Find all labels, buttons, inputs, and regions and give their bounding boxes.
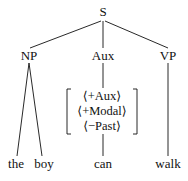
- node-np: NP: [21, 49, 38, 63]
- node-aux: Aux: [92, 49, 114, 63]
- edge-np-the: [17, 63, 29, 156]
- edge-np-boy: [29, 63, 42, 156]
- edge-s-np: [30, 21, 101, 48]
- leaf-the: the: [8, 157, 24, 171]
- node-s: S: [99, 5, 106, 19]
- edge-s-vp: [105, 21, 168, 48]
- feature-modal: ⟨+Modal⟩: [70, 104, 134, 119]
- feature-past: ⟨−Past⟩: [70, 119, 134, 134]
- feature-aux: ⟨+Aux⟩: [70, 89, 134, 104]
- leaf-boy: boy: [34, 157, 54, 171]
- leaf-can: can: [94, 157, 112, 171]
- leaf-walk: walk: [155, 157, 180, 171]
- node-vp: VP: [160, 49, 177, 63]
